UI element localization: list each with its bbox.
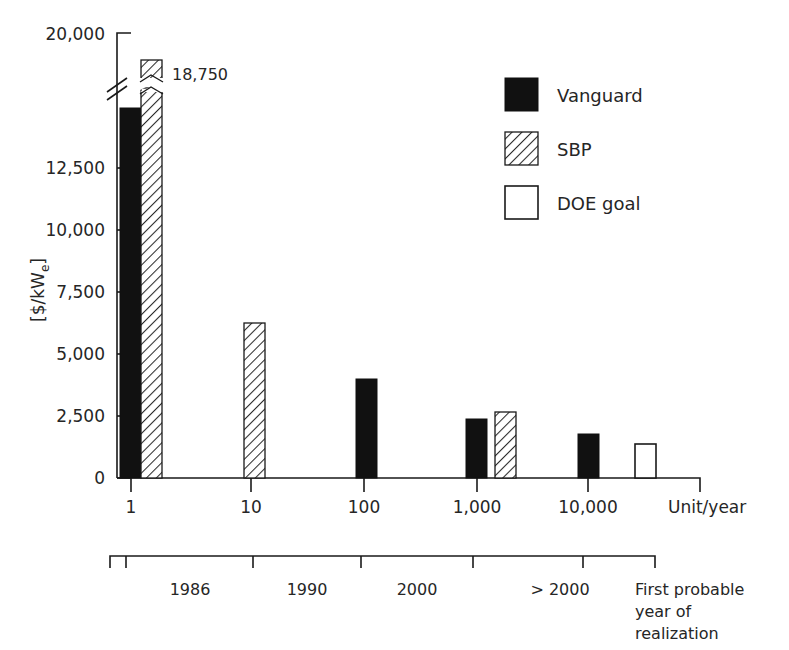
value-label-sbp-1: 18,750 bbox=[172, 65, 228, 84]
timeline-axis: 1986 1990 2000 > 2000 First probable yea… bbox=[110, 556, 744, 643]
x-tick-label-10000: 10,000 bbox=[558, 497, 617, 517]
timeline-label-1986: 1986 bbox=[170, 580, 211, 599]
x-axis-title: Unit/year bbox=[668, 497, 746, 517]
bar-vanguard-10000 bbox=[578, 434, 599, 478]
bar-doe-goal bbox=[635, 444, 656, 478]
bar-vanguard-100 bbox=[356, 379, 377, 478]
y-tick-label-12500: 12,500 bbox=[46, 158, 105, 178]
y-tick-label-5000: 5,000 bbox=[56, 344, 105, 364]
y-tick-label-10000: 10,000 bbox=[46, 220, 105, 240]
legend-label-sbp: SBP bbox=[557, 139, 592, 160]
bar-sbp-10 bbox=[244, 323, 265, 478]
legend-swatch-doe-goal bbox=[505, 186, 538, 219]
x-tick-label-10: 10 bbox=[240, 497, 262, 517]
bar-sbp-1000 bbox=[495, 412, 516, 478]
bar-sbp-1-lower bbox=[141, 88, 162, 478]
y-axis-title-close: ] bbox=[28, 258, 48, 265]
bars-group: 18,750 bbox=[120, 60, 656, 478]
bar-vanguard-1000 bbox=[466, 419, 487, 478]
x-tick-label-100: 100 bbox=[348, 497, 380, 517]
x-tick-label-1: 1 bbox=[126, 497, 137, 517]
legend: Vanguard SBP DOE goal bbox=[505, 78, 643, 219]
legend-label-doe-goal: DOE goal bbox=[557, 193, 641, 214]
legend-swatch-vanguard bbox=[505, 78, 538, 111]
y-tick-label-20000: 20,000 bbox=[46, 24, 105, 44]
timeline-label-2000: 2000 bbox=[397, 580, 438, 599]
y-axis-title: [$/kWe] bbox=[28, 258, 52, 322]
timeline-axis-line bbox=[110, 556, 655, 568]
x-axis-line bbox=[117, 478, 700, 492]
x-tick-label-1000: 1,000 bbox=[453, 497, 502, 517]
chart-svg: 20,000 12,500 10,000 7,500 5,000 2,500 0… bbox=[0, 0, 789, 650]
y-tick-label-0: 0 bbox=[94, 468, 105, 488]
timeline-caption-line-1: First probable bbox=[635, 580, 744, 599]
svg-text:[$/kWe]: [$/kWe] bbox=[28, 258, 52, 322]
x-axis: 1 10 100 1,000 10,000 Unit/year bbox=[117, 478, 746, 517]
bar-vanguard-1 bbox=[120, 108, 141, 478]
y-axis-title-main: [$/kW bbox=[28, 272, 48, 322]
legend-label-vanguard: Vanguard bbox=[557, 85, 643, 106]
timeline-label-1990: 1990 bbox=[287, 580, 328, 599]
legend-swatch-sbp bbox=[505, 132, 538, 165]
y-axis-title-sub: e bbox=[38, 265, 52, 272]
chart-figure: 20,000 12,500 10,000 7,500 5,000 2,500 0… bbox=[0, 0, 789, 650]
y-axis: 20,000 12,500 10,000 7,500 5,000 2,500 0… bbox=[28, 24, 131, 488]
y-tick-label-7500: 7,500 bbox=[56, 282, 105, 302]
y-tick-label-2500: 2,500 bbox=[56, 406, 105, 426]
timeline-label-after-2000: > 2000 bbox=[530, 580, 589, 599]
timeline-caption-line-2: year of bbox=[635, 602, 692, 621]
timeline-caption-line-3: realization bbox=[635, 624, 719, 643]
